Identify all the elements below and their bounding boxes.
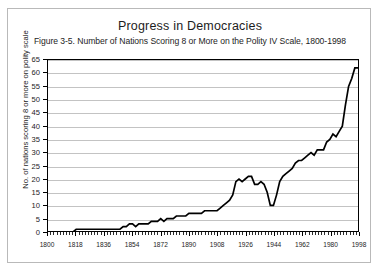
x-minor-tick (249, 232, 250, 235)
x-minor-tick (192, 232, 193, 235)
x-minor-tick (305, 232, 306, 235)
x-minor-tick (265, 232, 266, 235)
x-minor-tick (239, 232, 240, 235)
y-tick-label: 20 (32, 174, 40, 183)
x-minor-tick (157, 232, 158, 235)
x-tick-label: 1800 (40, 241, 55, 248)
x-minor-tick (195, 232, 196, 235)
x-tick-label: 1980 (323, 241, 338, 248)
x-minor-tick (97, 232, 98, 235)
x-minor-tick (230, 232, 231, 235)
x-tick-label: 1926 (238, 241, 253, 248)
x-major-tick (47, 232, 48, 236)
x-minor-tick (148, 232, 149, 235)
x-minor-tick (186, 232, 187, 235)
x-minor-tick (211, 232, 212, 235)
x-minor-tick (309, 232, 310, 235)
x-minor-tick (72, 232, 73, 235)
y-axis-ticks: 05101520253035404550556065 (8, 59, 47, 232)
x-minor-tick (176, 232, 177, 235)
x-minor-tick (261, 232, 262, 235)
x-minor-tick (343, 232, 344, 235)
x-minor-tick (227, 232, 228, 235)
x-minor-tick (280, 232, 281, 235)
x-minor-tick (201, 232, 202, 235)
x-minor-tick (170, 232, 171, 235)
x-major-tick (132, 232, 133, 236)
x-minor-tick (63, 232, 64, 235)
x-minor-tick (107, 232, 108, 235)
x-minor-tick (205, 232, 206, 235)
y-tick-label: 25 (32, 161, 40, 170)
x-minor-tick (321, 232, 322, 235)
x-major-tick (75, 232, 76, 236)
x-minor-tick (82, 232, 83, 235)
x-minor-tick (126, 232, 127, 235)
x-minor-tick (242, 232, 243, 235)
x-minor-tick (252, 232, 253, 235)
x-major-tick (331, 232, 332, 236)
x-minor-tick (173, 232, 174, 235)
plot-area (47, 59, 359, 232)
x-minor-tick (113, 232, 114, 235)
x-minor-tick (353, 232, 354, 235)
figure-frame: Progress in Democracies Figure 3-5. Numb… (7, 8, 371, 263)
y-tick-label: 65 (32, 55, 40, 64)
x-major-tick (246, 232, 247, 236)
x-minor-tick (299, 232, 300, 235)
x-minor-tick (79, 232, 80, 235)
x-minor-tick (142, 232, 143, 235)
x-minor-tick (258, 232, 259, 235)
x-minor-tick (233, 232, 234, 235)
x-major-tick (189, 232, 190, 236)
x-tick-label: 1962 (295, 241, 310, 248)
x-minor-tick (346, 232, 347, 235)
x-minor-tick (214, 232, 215, 235)
x-major-tick (274, 232, 275, 236)
y-tick-label: 60 (32, 68, 40, 77)
x-minor-tick (120, 232, 121, 235)
x-minor-tick (53, 232, 54, 235)
y-tick-label: 30 (32, 148, 40, 157)
x-minor-tick (145, 232, 146, 235)
x-minor-tick (296, 232, 297, 235)
x-minor-tick (328, 232, 329, 235)
x-minor-tick (91, 232, 92, 235)
x-minor-tick (154, 232, 155, 235)
y-tick-label: 50 (32, 94, 40, 103)
x-minor-tick (287, 232, 288, 235)
x-minor-tick (135, 232, 136, 235)
x-minor-tick (277, 232, 278, 235)
x-tick-label: 1818 (68, 241, 83, 248)
x-minor-tick (290, 232, 291, 235)
x-minor-tick (334, 232, 335, 235)
x-minor-tick (167, 232, 168, 235)
x-minor-tick (337, 232, 338, 235)
y-tick-label: 45 (32, 108, 40, 117)
x-minor-tick (110, 232, 111, 235)
x-minor-tick (151, 232, 152, 235)
x-minor-tick (271, 232, 272, 235)
x-major-tick (359, 232, 360, 236)
title-block: Progress in Democracies Figure 3-5. Numb… (8, 19, 372, 47)
x-minor-tick (101, 232, 102, 235)
x-minor-tick (356, 232, 357, 235)
x-tick-label: 1836 (96, 241, 111, 248)
x-major-tick (217, 232, 218, 236)
x-minor-tick (220, 232, 221, 235)
x-minor-tick (138, 232, 139, 235)
chart-title: Progress in Democracies (8, 19, 372, 33)
x-minor-tick (123, 232, 124, 235)
data-series-line (48, 60, 358, 232)
x-minor-tick (340, 232, 341, 235)
x-minor-tick (293, 232, 294, 235)
x-tick-label: 1872 (153, 241, 168, 248)
x-minor-tick (179, 232, 180, 235)
x-minor-tick (66, 232, 67, 235)
x-minor-tick (50, 232, 51, 235)
x-tick-label: 1854 (125, 241, 140, 248)
x-minor-tick (94, 232, 95, 235)
y-tick-label: 10 (32, 201, 40, 210)
x-minor-tick (324, 232, 325, 235)
series-line (48, 68, 358, 232)
